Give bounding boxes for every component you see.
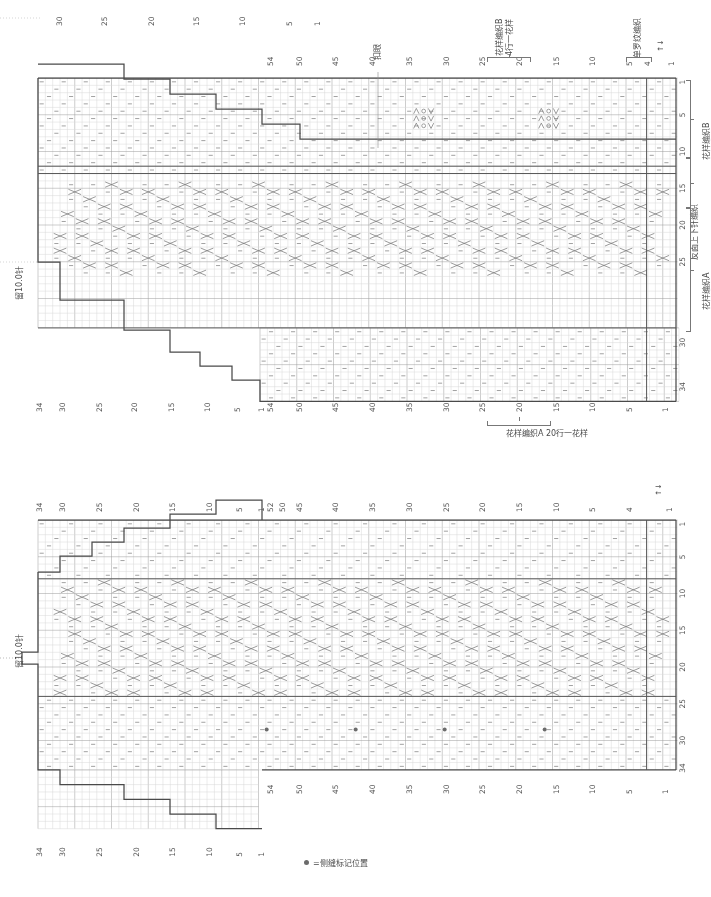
back-piece-chart	[0, 0, 711, 452]
back-rib-brace	[626, 57, 652, 62]
back-hold-label: 留10.0针	[16, 266, 24, 300]
back-pattern-b-repeat: 4行一花样	[506, 19, 514, 56]
back-rib-note: 单罗纹编织	[634, 18, 642, 58]
front-piece-chart	[0, 452, 711, 862]
knitting-chart-page: 留10.0针 扣眼 花样编织B 4行一花样 单罗纹编织 花样编织B 反面上下针编…	[0, 0, 711, 897]
back-bottom-note: 花样编织A 20行一花样	[506, 430, 588, 438]
legend: =侧缝标记位置	[304, 857, 368, 868]
back-pattern-b-note: 花样编织B	[496, 19, 504, 57]
back-section-pattern-b-brace	[686, 80, 691, 158]
back-section-pattern-b: 花样编织B	[703, 123, 711, 161]
back-section-reverse-st: 反面上下针编织	[691, 204, 699, 260]
back-bottom-brace	[487, 421, 551, 426]
back-pattern-b-brace	[487, 57, 531, 62]
back-buttonhole-label: 扣眼	[374, 44, 382, 60]
marker-dot-icon	[304, 860, 309, 865]
back-section-pattern-a: 花样编织A	[703, 273, 711, 310]
front-hold-label: 留10.0针	[16, 634, 24, 668]
back-section-reverse-brace	[686, 158, 691, 208]
legend-text: =侧缝标记位置	[313, 857, 368, 868]
back-section-pattern-a-brace	[686, 208, 691, 332]
